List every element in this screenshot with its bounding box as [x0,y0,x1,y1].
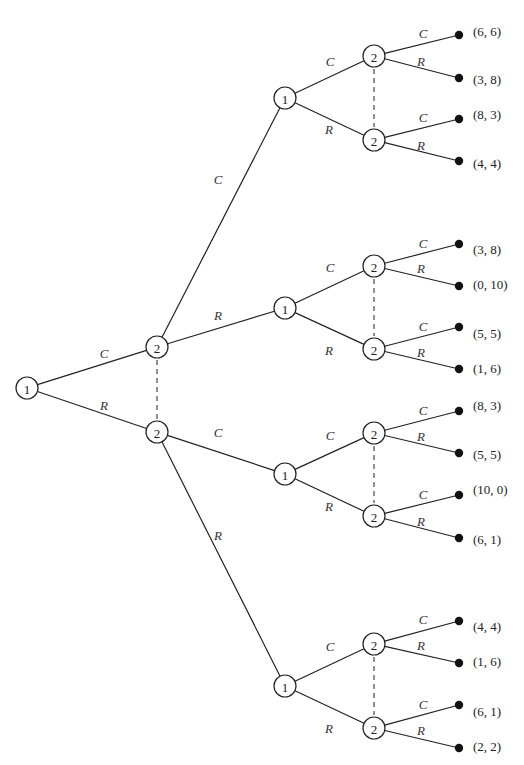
terminal-node-dot [455,323,463,331]
player-label: 1 [24,382,31,397]
player-label: 2 [371,638,378,653]
action-label: R [416,429,425,444]
action-label: R [213,308,222,323]
decision-node-player-2: 2 [363,255,385,277]
action-label: C [419,697,428,712]
decision-node-player-2: 2 [363,338,385,360]
action-label: C [419,487,428,502]
player-label: 1 [282,92,289,107]
decision-node-player-2: 2 [363,633,385,655]
decision-node-player-1: 1 [16,377,38,399]
action-label: C [326,54,335,69]
terminal-node-dot [455,74,463,82]
payoff-label: (6, 6) [473,24,501,39]
player-label: 1 [282,302,289,317]
player-label: 2 [371,722,378,737]
player-label: 2 [371,427,378,442]
terminal-nodes-layer: (6, 6)(3, 8)(8, 3)(4, 4)(3, 8)(0, 10)(5,… [455,24,508,754]
payoff-label: (4, 4) [473,619,501,634]
action-label: R [324,499,333,514]
action-label: C [419,26,428,41]
player-label: 2 [371,134,378,149]
payoff-label: (4, 4) [473,156,501,171]
edge-b-C [167,435,274,470]
payoff-label: (6, 1) [473,532,501,547]
edge-a-C [162,108,280,337]
player-label: 2 [154,426,161,441]
action-label: C [326,639,335,654]
action-label: R [324,122,333,137]
edge-n0-C [37,350,146,384]
terminal-node-dot [455,534,463,542]
action-label: C [214,172,223,187]
decision-node-player-2: 2 [146,336,168,358]
terminal-node-dot [455,491,463,499]
decision-node-player-2: 2 [363,129,385,151]
action-label: C [419,236,428,251]
terminal-node-dot [455,407,463,415]
player-label: 1 [282,680,289,695]
decision-node-player-2: 2 [363,505,385,527]
payoff-label: (0, 10) [473,277,508,292]
terminal-node-dot [455,240,463,248]
action-label: C [419,110,428,125]
action-label: R [416,723,425,738]
payoff-label: (1, 6) [473,361,501,376]
action-label: R [213,528,222,543]
payoff-label: (8, 3) [473,107,501,122]
player-label: 2 [154,341,161,356]
terminal-node-dot [455,659,463,667]
action-label: R [416,54,425,69]
player-label: 2 [371,510,378,525]
action-label: C [326,428,335,443]
action-label: R [324,343,333,358]
action-label: R [416,345,425,360]
action-label: C [419,319,428,334]
decision-node-player-1: 1 [274,675,296,697]
payoff-label: (2, 2) [473,739,501,754]
player-label: 1 [282,468,289,483]
payoff-label: (10, 0) [473,482,508,497]
terminal-node-dot [455,701,463,709]
terminal-node-dot [455,365,463,373]
edge-aR-R [295,313,364,345]
decision-node-player-1: 1 [274,87,296,109]
action-label: C [419,403,428,418]
action-label: C [419,612,428,627]
decision-node-player-1: 1 [274,297,296,319]
action-label: R [324,721,333,736]
terminal-node-dot [455,617,463,625]
edge-n0-R [37,392,146,429]
decision-node-player-1: 1 [274,463,296,485]
decision-nodes-layer: 122111122222222 [16,45,385,739]
decision-node-player-2: 2 [363,45,385,67]
action-label: C [100,346,109,361]
player-label: 2 [371,50,378,65]
payoff-label: (1, 6) [473,654,501,669]
decision-node-player-2: 2 [363,422,385,444]
edge-aR-C [295,271,364,304]
decision-node-player-2: 2 [363,717,385,739]
action-label: R [416,261,425,276]
terminal-node-dot [455,282,463,290]
terminal-node-dot [455,115,463,123]
terminal-node-dot [455,157,463,165]
player-label: 2 [371,343,378,358]
action-label: R [416,638,425,653]
edges-layer [37,61,364,724]
action-label: R [416,514,425,529]
payoff-label: (5, 5) [473,326,501,341]
terminal-node-dot [455,31,463,39]
payoff-label: (3, 8) [473,72,501,87]
game-tree-diagram: CRCRCRCRCRCRCRCRCRCRCRCRCRCRCR 122111122… [0,0,524,765]
information-sets-layer [157,69,374,715]
player-label: 2 [371,260,378,275]
edge-b-R [162,442,280,676]
action-label: R [99,398,108,413]
payoff-label: (6, 1) [473,704,501,719]
terminal-node-dot [455,744,463,752]
terminal-node-dot [455,449,463,457]
action-label: C [326,260,335,275]
action-label: C [214,425,223,440]
decision-node-player-2: 2 [146,421,168,443]
